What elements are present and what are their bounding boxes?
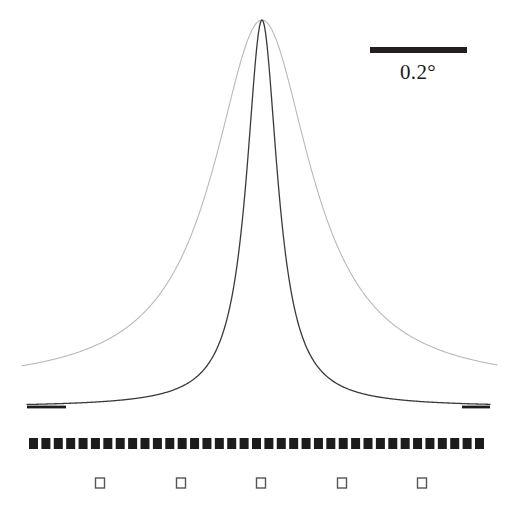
filled-square-tick — [54, 438, 63, 449]
filled-square-tick — [79, 438, 88, 449]
filled-square-tick — [165, 438, 174, 449]
filled-square-tick — [475, 438, 484, 449]
filled-square-tick — [450, 438, 459, 449]
filled-square-tick — [376, 438, 385, 449]
filled-square-tick — [277, 438, 286, 449]
filled-square-tick — [438, 438, 447, 449]
filled-square-tick — [364, 438, 373, 449]
filled-square-tick — [351, 438, 360, 449]
filled-square-tick — [314, 438, 323, 449]
open-square-tick — [418, 478, 427, 488]
filled-square-tick — [141, 438, 150, 449]
filled-square-tick — [103, 438, 112, 449]
narrow-curve-tail-segment — [462, 406, 490, 409]
filled-square-tick — [425, 438, 434, 449]
open-square-tick — [96, 478, 105, 488]
filled-square-tick — [178, 438, 187, 449]
open-square-tick — [177, 478, 186, 488]
filled-square-tick — [302, 438, 311, 449]
open-square-tick-row — [96, 478, 427, 488]
filled-square-tick — [66, 438, 75, 449]
open-square-tick — [338, 478, 347, 488]
filled-square-tick — [128, 438, 137, 449]
filled-square-tick — [202, 438, 211, 449]
filled-square-tick — [227, 438, 236, 449]
open-square-tick — [257, 478, 266, 488]
filled-square-tick — [264, 438, 273, 449]
filled-square-tick — [153, 438, 162, 449]
filled-square-tick — [289, 438, 298, 449]
filled-square-tick — [240, 438, 249, 449]
filled-square-tick — [401, 438, 410, 449]
filled-square-tick — [91, 438, 100, 449]
filled-square-tick — [215, 438, 224, 449]
narrow-curve-thick-tails — [27, 406, 490, 409]
filled-square-tick — [413, 438, 422, 449]
scale-bar — [370, 47, 467, 53]
filled-square-tick — [463, 438, 472, 449]
filled-square-tick — [252, 438, 261, 449]
filled-square-tick — [326, 438, 335, 449]
filled-square-tick — [388, 438, 397, 449]
scale-bar-label: 0.2° — [358, 60, 478, 85]
filled-square-tick-row — [29, 438, 484, 449]
filled-square-tick — [190, 438, 199, 449]
filled-square-tick — [29, 438, 38, 449]
narrow-curve-tail-segment — [27, 406, 66, 409]
filled-square-tick — [116, 438, 125, 449]
filled-square-tick — [339, 438, 348, 449]
rocking-curve-figure: 0.2° — [0, 0, 511, 522]
filled-square-tick — [41, 438, 50, 449]
